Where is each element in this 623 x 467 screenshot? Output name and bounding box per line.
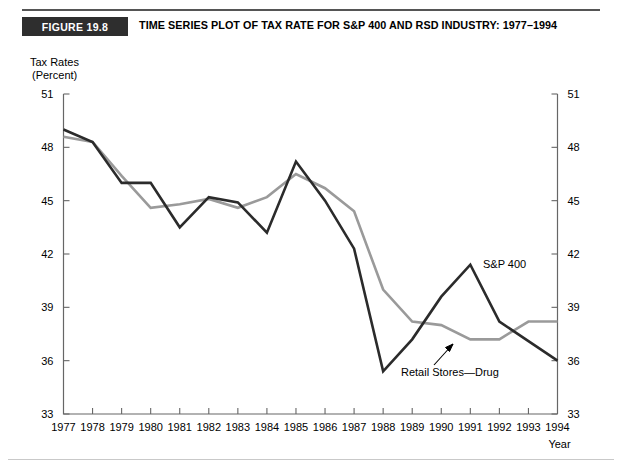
y-tick-label-right: 48 xyxy=(568,141,580,153)
y-tick-label-right: 42 xyxy=(568,248,580,260)
y-tick-label-left: 45 xyxy=(41,195,53,207)
x-tick-label: 1984 xyxy=(255,421,279,433)
series-line-sp400 xyxy=(64,130,558,372)
x-tick-label: 1982 xyxy=(197,421,221,433)
x-tick-label: 1993 xyxy=(516,421,540,433)
x-tick-label: 1977 xyxy=(51,421,75,433)
x-tick-label: 1981 xyxy=(167,421,191,433)
y-axis-title-line1: Tax Rates xyxy=(30,56,79,68)
y-tick-label-right: 51 xyxy=(568,88,580,100)
page-bottom-divider xyxy=(8,459,614,460)
x-tick-label: 1990 xyxy=(429,421,453,433)
y-tick-label-right: 45 xyxy=(568,195,580,207)
y-tick-label-left: 42 xyxy=(41,248,53,260)
y-tick-label-left: 39 xyxy=(41,301,53,313)
x-tick-label: 1987 xyxy=(342,421,366,433)
line-chart-svg: 3333363639394242454548485151197719781979… xyxy=(0,0,623,467)
x-tick-label: 1980 xyxy=(138,421,162,433)
x-tick-label: 1992 xyxy=(487,421,511,433)
axis-group: 3333363639394242454548485151197719781979… xyxy=(30,56,580,450)
y-tick-label-right: 33 xyxy=(568,408,580,420)
x-tick-label: 1983 xyxy=(226,421,250,433)
x-tick-label: 1985 xyxy=(284,421,308,433)
x-tick-label: 1986 xyxy=(313,421,337,433)
chart-plot-area: 3333363639394242454548485151197719781979… xyxy=(0,0,623,467)
x-tick-label: 1978 xyxy=(80,421,104,433)
series-label-retail-stores-drug: Retail Stores—Drug xyxy=(401,366,499,378)
series-group xyxy=(64,130,558,372)
x-tick-label: 1991 xyxy=(458,421,482,433)
x-tick-label: 1989 xyxy=(400,421,424,433)
figure-page: FIGURE 19.8 TIME SERIES PLOT OF TAX RATE… xyxy=(0,0,623,467)
y-tick-label-left: 48 xyxy=(41,141,53,153)
y-tick-label-right: 36 xyxy=(568,355,580,367)
x-tick-label: 1979 xyxy=(109,421,133,433)
x-tick-label: 1994 xyxy=(545,421,569,433)
x-axis-title: Year xyxy=(548,438,571,450)
series-label-sp400: S&P 400 xyxy=(483,258,526,270)
y-tick-label-left: 36 xyxy=(41,355,53,367)
series-line-retail-stores-drug xyxy=(64,137,558,340)
y-tick-label-left: 51 xyxy=(41,88,53,100)
y-axis-title-line2: (Percent) xyxy=(32,69,77,81)
y-tick-label-right: 39 xyxy=(568,301,580,313)
annotation-group: S&P 400Retail Stores—Drug xyxy=(401,258,526,378)
x-tick-label: 1988 xyxy=(371,421,395,433)
y-tick-label-left: 33 xyxy=(41,408,53,420)
